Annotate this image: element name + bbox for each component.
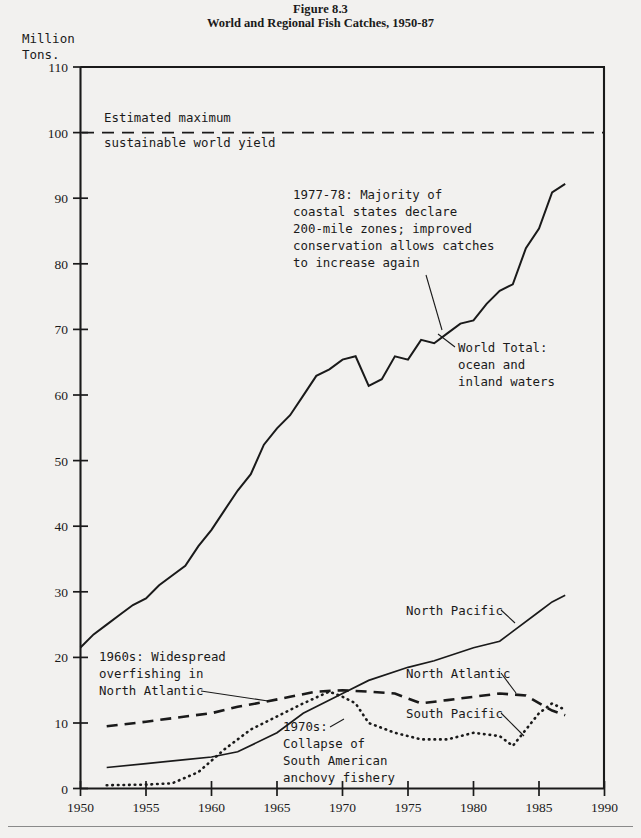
x-axis-ticks: 1950 1955 1960 1965 1970 1975 1980 1985 … — [67, 781, 618, 815]
world-total-label-line-3: inland waters — [458, 374, 555, 389]
series-label-south-pacific: South Pacific — [406, 706, 524, 736]
south-pacific-leader-line — [501, 713, 524, 736]
x-tick-label-1960: 1960 — [198, 800, 225, 815]
annotation-zones-line-3: 200-mile zones; improved — [293, 221, 472, 236]
y-tick-label-20: 20 — [55, 650, 69, 665]
y-tick-label-30: 30 — [55, 585, 69, 600]
series-label-north-atlantic: North Atlantic — [406, 666, 516, 693]
y-tick-label-90: 90 — [55, 191, 69, 206]
annotation-1977-78-zones: 1977-78: Majority of coastal states decl… — [293, 187, 494, 330]
x-tick-label-1985: 1985 — [526, 800, 553, 815]
annotation-overfishing-leader-line — [201, 691, 268, 701]
annotation-overfishing-line-3: North Atlantic — [99, 683, 203, 698]
x-tick-label-1980: 1980 — [460, 800, 487, 815]
y-tick-label-70: 70 — [55, 322, 69, 337]
annotation-zones-line-2: coastal states declare — [293, 204, 457, 219]
annotation-max-yield-line-2: sustainable world yield — [104, 135, 276, 150]
x-tick-label-1955: 1955 — [133, 800, 160, 815]
y-tick-label-80: 80 — [55, 257, 69, 272]
x-tick-label-1950: 1950 — [67, 800, 94, 815]
north-pacific-label: North Pacific — [406, 603, 503, 618]
y-tick-label-110: 110 — [48, 60, 68, 75]
north-atlantic-label: North Atlantic — [406, 666, 510, 681]
annotation-max-sustainable-yield: Estimated maximum sustainable world yiel… — [104, 110, 276, 150]
y-axis-ticks: 110 100 90 80 70 60 50 40 30 20 10 0 — [48, 60, 88, 797]
annotation-max-yield-line-1: Estimated maximum — [104, 110, 231, 125]
north-pacific-leader-line — [501, 610, 515, 623]
y-tick-label-0: 0 — [61, 782, 68, 797]
annotation-anchovy-line-4: anchovy fishery — [283, 770, 395, 785]
series-label-world-total: World Total: ocean and inland waters — [438, 334, 555, 389]
world-total-leader-line — [438, 334, 455, 347]
world-total-label-line-1: World Total: — [458, 340, 548, 355]
y-tick-label-60: 60 — [55, 388, 69, 403]
figure-root: Figure 8.3 World and Regional Fish Catch… — [0, 0, 641, 838]
x-tick-label-1990: 1990 — [591, 800, 618, 815]
annotation-anchovy-line-1: 1970s: — [283, 719, 328, 734]
annotation-anchovy-line-3: South American — [283, 753, 387, 768]
annotation-zones-line-4: conservation allows catches — [293, 238, 494, 253]
annotation-anchovy-line-2: Collapse of — [283, 736, 365, 751]
south-pacific-label: South Pacific — [406, 706, 503, 721]
annotation-zones-line-1: 1977-78: Majority of — [293, 187, 442, 202]
x-tick-label-1965: 1965 — [264, 800, 291, 815]
annotation-1960s-overfishing: 1960s: Widespread overfishing in North A… — [99, 649, 268, 701]
x-tick-label-1970: 1970 — [329, 800, 356, 815]
series-label-north-pacific: North Pacific — [406, 603, 515, 623]
annotation-zones-leader-line — [426, 275, 442, 330]
annotation-zones-line-5: to increase again — [293, 255, 420, 270]
x-tick-label-1975: 1975 — [395, 800, 422, 815]
y-tick-label-50: 50 — [55, 454, 69, 469]
series-world-total-curve — [81, 184, 566, 648]
fish-catch-line-chart: 110 100 90 80 70 60 50 40 30 20 10 0 195… — [0, 0, 641, 838]
annotation-overfishing-line-1: 1960s: Widespread — [99, 649, 226, 664]
annotation-anchovy-leader-line — [330, 719, 344, 727]
annotation-1970s-anchovy: 1970s: Collapse of South American anchov… — [283, 719, 395, 785]
y-tick-label-40: 40 — [55, 519, 69, 534]
y-tick-label-100: 100 — [48, 126, 69, 141]
y-tick-label-10: 10 — [55, 716, 69, 731]
page-bottom-rule — [8, 826, 633, 827]
annotation-overfishing-line-2: overfishing in — [99, 666, 203, 681]
world-total-label-line-2: ocean and — [458, 357, 525, 372]
